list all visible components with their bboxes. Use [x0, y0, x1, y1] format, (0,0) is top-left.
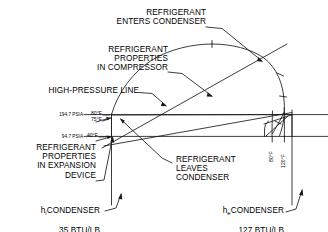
enthalpy-inlet-text: CONDENSER — [47, 206, 100, 215]
temp-label-right-120f: 120°F — [281, 141, 287, 168]
arrowhead-he-enthalpy — [299, 189, 303, 196]
enthalpy-label-inlet: hiCONDENSER 35 BTU/LB — [18, 197, 100, 232]
temp-label-left-75f: 75°F — [83, 117, 102, 123]
arrowhead-temp-75f — [106, 117, 111, 121]
pressure-label-high: 194.7 PSIA — [46, 112, 83, 117]
enthalpy-inlet-value: 35 BTU/LB — [59, 226, 100, 232]
leader-he-enthalpy — [286, 190, 302, 212]
construction-line-compressor — [104, 113, 292, 147]
callout-in-compressor: REFRIGERANT PROPERTIES IN COMPRESSOR — [68, 45, 168, 73]
arrowhead-high-pressure — [161, 102, 167, 106]
leader-hi-enthalpy — [105, 194, 121, 211]
arrowhead-hi-enthalpy — [118, 193, 122, 199]
arrowhead-temp-40f — [107, 135, 112, 139]
enthalpy-outlet-value: 127 BTU/LB — [238, 226, 284, 232]
leader-in-compressor — [168, 72, 212, 96]
leader-expansion-device — [96, 138, 113, 182]
dome-tick-right-lower — [280, 96, 287, 97]
arrowhead-leaves-condenser — [120, 118, 125, 124]
callout-high-pressure-line: HIGH-PRESSURE LINE — [29, 86, 139, 95]
temp-label-left-40f: 40°F — [79, 133, 98, 139]
ph-diagram-figure: REFRIGERANT ENTERS CONDENSER REFRIGERANT… — [0, 0, 328, 232]
enthalpy-outlet-text: CONDENSER — [231, 206, 284, 215]
pressure-label-low: 94.7 PSIA — [46, 134, 83, 139]
callout-enters-condenser: REFRIGERANT ENTERS CONDENSER — [96, 8, 206, 26]
saturation-dome-vapor-branch — [212, 44, 284, 118]
temp-label-right-80f: 80°F — [269, 140, 275, 162]
enthalpy-label-outlet: heCONDENSER 127 BTU/LB — [196, 197, 284, 232]
callout-in-expansion-device: REFRIGERANT PROPERTIES IN EXPANSION DEVI… — [4, 143, 96, 180]
